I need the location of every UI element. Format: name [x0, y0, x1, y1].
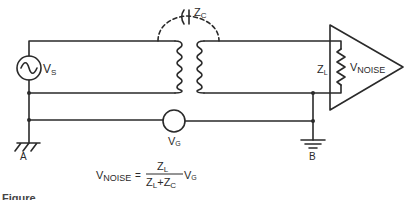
circuit-diagram: VS ZC ZL VNOISE VG A B VNOISE = ZL ZL+ZC… [0, 0, 414, 200]
chassis-ground-icon [15, 143, 40, 151]
junction-dot [27, 91, 31, 95]
formula-lhs: VNOISE [96, 169, 131, 183]
noise-formula: VNOISE = ZL ZL+ZC VG [96, 160, 197, 190]
load-resistor-icon [337, 49, 345, 85]
ground-a-label: A [20, 151, 27, 162]
formula-denominator: ZL+ZC [146, 176, 176, 190]
junction-dot [311, 91, 315, 95]
secondary-coil-icon [197, 41, 204, 93]
formula-numerator: ZL [157, 160, 169, 174]
source-label: VS [43, 62, 56, 77]
primary-coil-icon [175, 41, 182, 93]
load-label: ZL [317, 63, 328, 76]
capacitance-label: ZC [194, 6, 207, 20]
earth-ground-icon [301, 140, 325, 148]
formula-equals: = [135, 170, 141, 181]
ground-b-label: B [309, 151, 316, 162]
ground-voltage-label: VG [168, 135, 181, 147]
source-top-wire [29, 41, 175, 56]
junction-dot [311, 119, 315, 123]
load-top-wire [204, 41, 341, 49]
formula-rhs: VG [184, 169, 197, 181]
noise-voltage-label: VNOISE [350, 61, 385, 75]
load-bottom-wire [204, 85, 341, 93]
figure-caption: Figure [2, 192, 36, 200]
ground-voltage-source-icon [163, 110, 185, 132]
sine-wave-icon [21, 63, 37, 74]
junction-dot [27, 118, 31, 122]
